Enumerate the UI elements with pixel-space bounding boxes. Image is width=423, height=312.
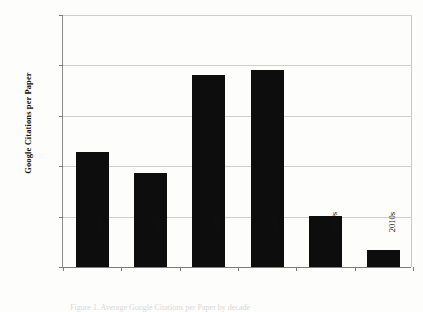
x-category-label: 2000s [329,212,339,272]
y-tick-mark [59,116,63,117]
y-tick-mark [59,15,63,16]
gridline [63,217,411,218]
gridline [63,267,411,268]
x-category-label: 1960s [95,212,105,272]
chart-figure: Google Citations per Paper 05001,0001,50… [0,0,423,312]
y-tick-mark [59,217,63,218]
y-tick-mark [59,166,63,167]
y-tick-mark [59,65,63,66]
x-tick-mark [121,267,122,271]
figure-caption: Figure 1. Average Google Citations per P… [70,303,410,312]
x-category-label: 1990s [270,212,280,272]
gridline [63,15,411,16]
gridline [63,166,411,167]
x-tick-mark [296,267,297,271]
x-tick-mark [238,267,239,271]
x-category-label: 1980s [212,212,222,272]
x-tick-mark [180,267,181,271]
x-category-label: 2010s [387,212,397,272]
x-tick-mark [63,267,64,271]
x-tick-mark [413,267,414,271]
gridline [63,116,411,117]
x-tick-mark [355,267,356,271]
y-axis-title: Google Citations per Paper [23,33,33,213]
x-category-label: 1970s [154,212,164,272]
gridline [63,65,411,66]
plot-area: 05001,0001,5002,0002,500 [62,15,412,267]
